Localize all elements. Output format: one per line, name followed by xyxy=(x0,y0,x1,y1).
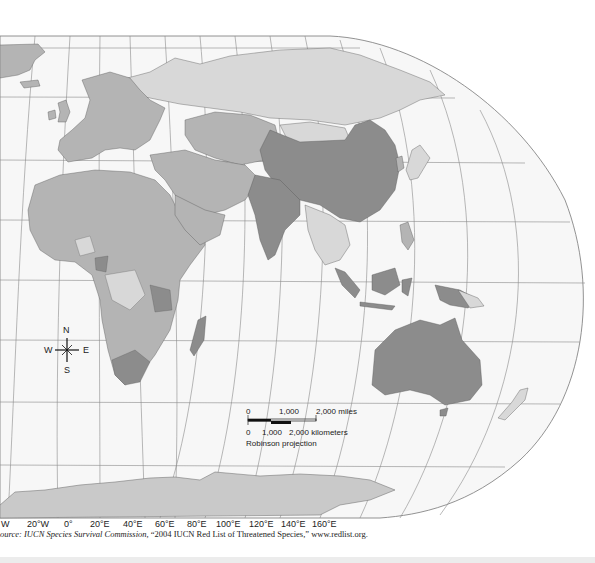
scale-km-1000: 1,000 xyxy=(262,428,282,437)
source-org: IUCN Species Survival Commission, xyxy=(24,529,149,539)
lon-label: 140°E xyxy=(281,519,306,529)
scale-miles-1000: 1,000 xyxy=(279,407,299,416)
lon-label: 20°E xyxy=(90,519,110,529)
lon-label: 20°W xyxy=(27,519,49,529)
bottom-strip xyxy=(0,557,595,563)
scale-miles-2000: 2,000 miles xyxy=(316,407,357,416)
scale-km-0: 0 xyxy=(246,428,250,437)
lon-label: W xyxy=(1,519,10,529)
scale-km-2000: 2,000 kilometers xyxy=(289,428,348,437)
lon-label: 80°E xyxy=(187,519,207,529)
compass-west: W xyxy=(44,345,53,355)
lon-label: 120°E xyxy=(249,519,274,529)
lon-label: 60°E xyxy=(155,519,175,529)
source-title: “2004 IUCN Red List of Threatened Specie… xyxy=(149,529,368,539)
ireland xyxy=(48,110,56,120)
lon-label: 100°E xyxy=(216,519,241,529)
lon-label: 0° xyxy=(64,519,73,529)
world-map: N W E S 0 1,000 2,000 miles 0 1,000 2,00… xyxy=(0,0,595,530)
projection-label: Robinson projection xyxy=(246,439,317,448)
source-prefix: ource: xyxy=(0,529,24,539)
lon-label: 40°E xyxy=(123,519,143,529)
cameroon xyxy=(95,256,108,272)
map-graphic xyxy=(0,0,595,530)
source-citation: ource: IUCN Species Survival Commission,… xyxy=(0,529,368,539)
lon-label: 160°E xyxy=(312,519,337,529)
compass-east: E xyxy=(83,345,89,355)
compass-south: S xyxy=(64,365,70,375)
scale-miles-0: 0 xyxy=(246,407,250,416)
compass-north: N xyxy=(63,325,70,335)
